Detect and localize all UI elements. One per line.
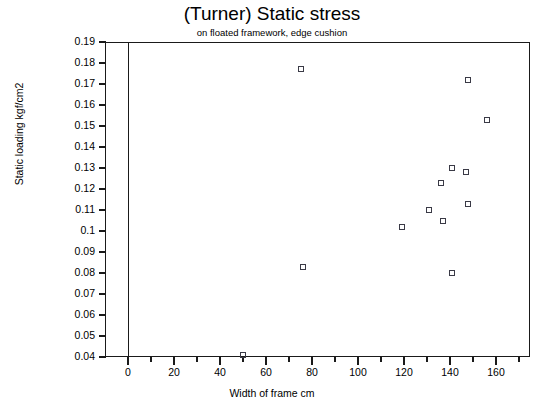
y-axis-tick [99,125,106,126]
y-axis-tick [99,83,106,84]
y-axis-tick [99,167,106,168]
x-axis-minor-tick [288,357,289,362]
scatter-marker [449,270,455,276]
x-axis-tick [311,357,312,365]
y-axis-tick [99,146,106,147]
y-axis-tick-label: 0.06 [51,309,95,320]
y-axis-tick [99,335,106,336]
y-axis-tick-label: 0.1 [51,225,95,236]
scatter-marker [465,77,471,83]
y-axis-tick-label: 0.12 [51,183,95,194]
x-axis-minor-tick [518,357,519,362]
y-axis-tick-label: 0.14 [51,141,95,152]
chart-title: (Turner) Static stress [0,3,544,25]
x-axis-minor-tick [334,357,335,362]
x-axis-minor-tick [472,357,473,362]
y-axis-tick [99,293,106,294]
y-axis-tick [99,272,106,273]
y-axis-tick [99,356,106,357]
x-axis-tick-label: 40 [200,366,240,378]
x-axis-tick [265,357,266,365]
scatter-marker [399,224,405,230]
y-axis-zero-line [128,42,129,357]
scatter-marker [465,201,471,207]
x-axis-tick [127,357,128,365]
scatter-marker [298,66,304,72]
y-axis-tick [99,62,106,63]
y-axis-title: Static loading kgf/cm2 [13,69,25,199]
x-axis-tick [449,357,450,365]
scatter-marker [240,352,246,358]
scatter-marker [300,264,306,270]
x-axis-tick [219,357,220,365]
x-axis-tick-label: 0 [108,366,148,378]
x-axis-tick-label: 120 [384,366,424,378]
y-axis-tick [99,314,106,315]
y-axis-tick-label: 0.15 [51,120,95,131]
scatter-marker [484,117,490,123]
x-axis-title: Width of frame cm [0,387,544,399]
x-axis-minor-tick [426,357,427,362]
y-axis-tick [99,209,106,210]
y-axis-tick-label: 0.19 [51,36,95,47]
y-axis-tick-label: 0.16 [51,99,95,110]
y-axis-tick-label: 0.09 [51,246,95,257]
x-axis-tick-label: 80 [292,366,332,378]
y-axis-tick-label: 0.11 [51,204,95,215]
x-axis-tick [173,357,174,365]
y-axis-tick-label: 0.17 [51,78,95,89]
x-axis-minor-tick [380,357,381,362]
y-axis-tick [99,41,106,42]
scatter-marker [449,165,455,171]
plot-area [105,42,530,357]
chart-screenshot: (Turner) Static stress on floated framew… [0,0,544,404]
scatter-marker [463,169,469,175]
y-axis-tick-label: 0.18 [51,57,95,68]
scatter-marker [438,180,444,186]
x-axis-minor-tick [150,357,151,362]
y-axis-tick [99,104,106,105]
x-axis-tick-label: 100 [338,366,378,378]
y-axis-tick [99,188,106,189]
x-axis-tick [495,357,496,365]
x-axis-tick-label: 140 [430,366,470,378]
y-axis-tick [99,230,106,231]
scatter-marker [440,218,446,224]
scatter-marker [426,207,432,213]
y-axis-tick-label: 0.07 [51,288,95,299]
y-axis-tick-label: 0.08 [51,267,95,278]
y-axis-tick-label: 0.04 [51,351,95,362]
y-axis-tick-label: 0.05 [51,330,95,341]
y-axis-tick-label: 0.13 [51,162,95,173]
x-axis-tick [357,357,358,365]
x-axis-tick [403,357,404,365]
x-axis-tick-label: 160 [476,366,516,378]
x-axis-tick-label: 20 [154,366,194,378]
x-axis-minor-tick [196,357,197,362]
y-axis-tick [99,251,106,252]
x-axis-tick-label: 60 [246,366,286,378]
